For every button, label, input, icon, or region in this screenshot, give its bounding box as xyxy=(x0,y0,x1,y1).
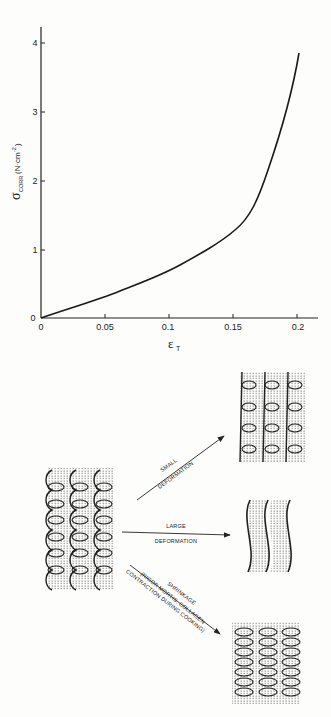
svg-text:-2: -2 xyxy=(11,147,17,152)
shrinkage-arrow: SHRINKAGE (RIGOR MORTIS, COLLAGEN CONTRA… xyxy=(125,556,220,634)
stress-strain-chart: 0 1 2 3 4 0 0.05 0.1 0.15 0.2 ε T σ CORR… xyxy=(8,27,318,352)
ytick-2: 2 xyxy=(32,176,37,186)
svg-text:T: T xyxy=(176,345,181,352)
xtick-0.05: 0.05 xyxy=(96,322,114,332)
svg-text:ε: ε xyxy=(168,336,174,351)
ytick-4: 4 xyxy=(32,38,37,48)
large-deformation-arrow: LARGE DEFORMATION xyxy=(122,523,230,544)
large-deformation-structure xyxy=(247,500,291,572)
x-axis-label: ε T xyxy=(168,336,181,352)
figure-canvas: 0 1 2 3 4 0 0.05 0.1 0.15 0.2 ε T σ CORR… xyxy=(0,0,331,717)
native-fibre-structure xyxy=(46,468,114,590)
xtick-0.15: 0.15 xyxy=(224,322,242,332)
shrinkage-structure xyxy=(232,622,300,704)
y-axis-label: σ CORR (N·cm -2 ) xyxy=(8,143,24,200)
xtick-0.1: 0.1 xyxy=(162,322,175,332)
xtick-0: 0 xyxy=(38,322,43,332)
svg-text:): ) xyxy=(13,143,22,146)
svg-text:(N·cm: (N·cm xyxy=(13,152,22,174)
small-deformation-structure xyxy=(240,372,305,462)
svg-text:DEFORMATION: DEFORMATION xyxy=(155,538,197,544)
ytick-3: 3 xyxy=(32,107,37,117)
svg-text:LARGE: LARGE xyxy=(166,523,186,529)
stress-strain-curve xyxy=(41,53,299,318)
svg-text:(RIGOR MORTIS, COLLAGEN: (RIGOR MORTIS, COLLAGEN xyxy=(140,571,207,625)
svg-text:DEFORMATION: DEFORMATION xyxy=(157,460,195,490)
collagen-deformation-diagram: SMALL DEFORMATION LARGE DEFORMATION xyxy=(46,372,305,704)
svg-text:σ: σ xyxy=(8,192,23,200)
ytick-1: 1 xyxy=(32,245,37,255)
xtick-0.2: 0.2 xyxy=(292,322,305,332)
ytick-0: 0 xyxy=(30,313,35,323)
small-deformation-arrow: SMALL DEFORMATION xyxy=(137,436,224,500)
svg-text:CORR: CORR xyxy=(18,176,24,192)
